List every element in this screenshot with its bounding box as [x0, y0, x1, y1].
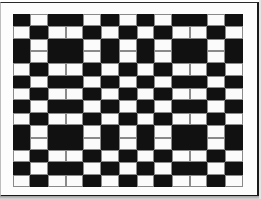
white-cell — [172, 63, 190, 75]
white-cell — [190, 150, 208, 162]
white-cell — [30, 125, 48, 137]
white-cell — [119, 76, 137, 88]
black-cell — [172, 76, 190, 88]
white-cell — [190, 63, 208, 75]
white-cell — [190, 26, 208, 38]
black-cell — [154, 150, 172, 162]
white-cell — [207, 76, 225, 88]
black-cell — [13, 76, 31, 88]
white-cell — [66, 63, 84, 75]
black-cell — [137, 14, 155, 26]
black-cell — [190, 138, 208, 150]
white-cell — [119, 100, 137, 112]
black-cell — [172, 14, 190, 26]
white-cell — [154, 100, 172, 112]
black-cell — [207, 26, 225, 38]
white-cell — [66, 26, 84, 38]
white-cell — [48, 26, 66, 38]
black-cell — [172, 100, 190, 112]
black-cell — [154, 175, 172, 187]
black-cell — [225, 14, 243, 26]
black-cell — [48, 138, 66, 150]
white-cell — [137, 88, 155, 100]
white-cell — [101, 113, 119, 125]
white-cell — [30, 162, 48, 174]
black-cell — [48, 76, 66, 88]
white-cell — [207, 14, 225, 26]
white-cell — [154, 138, 172, 150]
black-cell — [83, 26, 101, 38]
black-cell — [154, 26, 172, 38]
black-cell — [225, 162, 243, 174]
white-cell — [13, 175, 31, 187]
white-cell — [83, 100, 101, 112]
white-cell — [207, 39, 225, 51]
white-cell — [207, 125, 225, 137]
white-cell — [225, 150, 243, 162]
white-cell — [137, 150, 155, 162]
white-cell — [154, 125, 172, 137]
white-cell — [83, 51, 101, 63]
white-cell — [66, 150, 84, 162]
black-cell — [48, 39, 66, 51]
white-cell — [101, 175, 119, 187]
white-cell — [48, 88, 66, 100]
white-cell — [172, 150, 190, 162]
black-cell — [137, 100, 155, 112]
white-cell — [154, 14, 172, 26]
white-cell — [13, 150, 31, 162]
black-cell — [190, 51, 208, 63]
white-cell — [83, 14, 101, 26]
black-cell — [172, 39, 190, 51]
white-cell — [48, 63, 66, 75]
black-cell — [119, 113, 137, 125]
white-cell — [83, 39, 101, 51]
white-cell — [172, 113, 190, 125]
white-cell — [154, 39, 172, 51]
white-cell — [101, 26, 119, 38]
white-cell — [190, 175, 208, 187]
black-cell — [83, 113, 101, 125]
black-cell — [101, 125, 119, 137]
white-cell — [119, 51, 137, 63]
black-cell — [13, 162, 31, 174]
white-cell — [137, 26, 155, 38]
black-cell — [137, 138, 155, 150]
black-cell — [190, 14, 208, 26]
black-cell — [154, 113, 172, 125]
black-cell — [30, 113, 48, 125]
white-cell — [30, 100, 48, 112]
black-cell — [66, 138, 84, 150]
white-cell — [225, 63, 243, 75]
white-cell — [13, 88, 31, 100]
black-cell — [66, 39, 84, 51]
white-cell — [137, 175, 155, 187]
black-cell — [119, 175, 137, 187]
white-cell — [83, 76, 101, 88]
white-cell — [225, 88, 243, 100]
black-cell — [30, 175, 48, 187]
white-cell — [137, 63, 155, 75]
black-cell — [66, 125, 84, 137]
black-cell — [101, 100, 119, 112]
black-cell — [83, 63, 101, 75]
black-cell — [154, 63, 172, 75]
black-cell — [48, 14, 66, 26]
black-cell — [66, 51, 84, 63]
black-cell — [119, 150, 137, 162]
white-cell — [172, 88, 190, 100]
black-cell — [13, 14, 31, 26]
black-cell — [48, 51, 66, 63]
black-cell — [137, 125, 155, 137]
white-cell — [119, 162, 137, 174]
white-cell — [30, 51, 48, 63]
white-cell — [48, 175, 66, 187]
white-cell — [154, 76, 172, 88]
white-cell — [48, 150, 66, 162]
white-cell — [101, 150, 119, 162]
black-cell — [101, 51, 119, 63]
black-cell — [101, 76, 119, 88]
white-cell — [119, 138, 137, 150]
black-cell — [13, 39, 31, 51]
black-cell — [83, 88, 101, 100]
